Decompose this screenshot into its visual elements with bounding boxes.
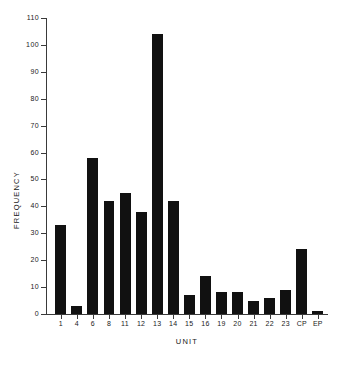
- y-axis-tick: [41, 233, 46, 234]
- x-axis-tick: [270, 315, 271, 319]
- x-axis-tick-label: 21: [246, 320, 262, 327]
- x-axis-tick: [141, 315, 142, 319]
- x-axis-tick-label: 14: [165, 320, 181, 327]
- y-axis-tick-label: 30: [18, 229, 39, 236]
- x-axis-tick-label: 20: [230, 320, 246, 327]
- x-axis-tick-label: CP: [294, 320, 310, 327]
- bar: [168, 201, 179, 314]
- x-axis-tick: [205, 315, 206, 319]
- bar: [104, 201, 115, 314]
- y-axis-tick: [41, 153, 46, 154]
- x-axis-tick: [61, 315, 62, 319]
- x-axis-tick-label: 11: [117, 320, 133, 327]
- y-axis-tick: [41, 314, 46, 315]
- x-axis-tick: [254, 315, 255, 319]
- y-axis-tick: [41, 260, 46, 261]
- y-axis-tick-label: 40: [18, 202, 39, 209]
- x-axis-tick: [125, 315, 126, 319]
- y-axis-tick-label: 100: [18, 41, 39, 48]
- y-axis-tick: [41, 287, 46, 288]
- x-axis-tick: [318, 315, 319, 319]
- x-axis-title: UNIT: [46, 337, 328, 346]
- x-axis-tick: [93, 315, 94, 319]
- y-axis-tick-label: 80: [18, 95, 39, 102]
- x-axis-tick-label: 15: [181, 320, 197, 327]
- bar: [312, 311, 323, 314]
- bar: [71, 306, 82, 314]
- bar: [200, 276, 211, 314]
- bar: [87, 158, 98, 314]
- y-axis-tick: [41, 99, 46, 100]
- x-axis-tick: [173, 315, 174, 319]
- y-axis-tick: [41, 18, 46, 19]
- y-axis-tick-label: 50: [18, 175, 39, 182]
- y-axis-tick-label: 90: [18, 68, 39, 75]
- bar: [120, 193, 131, 314]
- x-axis-tick-label: 23: [278, 320, 294, 327]
- y-axis-tick: [41, 206, 46, 207]
- x-axis-tick: [302, 315, 303, 319]
- y-axis-title: FREQUENCY: [9, 100, 23, 300]
- y-axis-tick-label: 10: [18, 283, 39, 290]
- bar-chart: FREQUENCY 0102030405060708090100110 1468…: [0, 0, 339, 369]
- x-axis-tick: [157, 315, 158, 319]
- x-axis-tick: [189, 315, 190, 319]
- x-axis-tick: [109, 315, 110, 319]
- x-axis-tick: [286, 315, 287, 319]
- bar: [55, 225, 66, 314]
- y-axis-tick: [41, 72, 46, 73]
- bar: [136, 212, 147, 314]
- y-axis-tick-label: 70: [18, 122, 39, 129]
- x-axis-tick-label: 16: [197, 320, 213, 327]
- x-axis-tick-label: 8: [101, 320, 117, 327]
- x-axis-tick-label: 13: [149, 320, 165, 327]
- x-axis-tick-label: EP: [310, 320, 326, 327]
- x-axis-tick-label: 19: [213, 320, 229, 327]
- y-axis-line: [46, 18, 47, 315]
- bar: [216, 292, 227, 314]
- x-axis-tick-label: 22: [262, 320, 278, 327]
- bar: [296, 249, 307, 314]
- x-axis-tick: [77, 315, 78, 319]
- x-axis-tick: [238, 315, 239, 319]
- y-axis-tick-label: 20: [18, 256, 39, 263]
- bar: [248, 301, 259, 314]
- x-axis-tick-label: 12: [133, 320, 149, 327]
- y-axis-tick-label: 0: [18, 310, 39, 317]
- x-axis-tick-label: 4: [69, 320, 85, 327]
- x-axis-tick-label: 6: [85, 320, 101, 327]
- y-axis-tick-label: 110: [18, 14, 39, 21]
- bar: [232, 292, 243, 314]
- y-axis-tick: [41, 45, 46, 46]
- bar: [280, 290, 291, 314]
- bar: [264, 298, 275, 314]
- x-axis-tick: [221, 315, 222, 319]
- y-axis-tick: [41, 179, 46, 180]
- bar: [152, 34, 163, 314]
- bar: [184, 295, 195, 314]
- x-axis-tick-label: 1: [53, 320, 69, 327]
- y-axis-tick: [41, 126, 46, 127]
- y-axis-tick-label: 60: [18, 149, 39, 156]
